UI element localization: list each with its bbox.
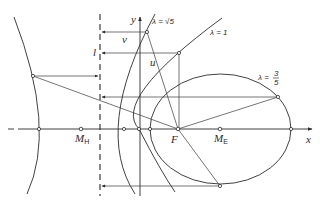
v-label: v bbox=[122, 33, 127, 45]
parabola-param-label: λ = 1 bbox=[209, 28, 228, 37]
left-hyperbola-point bbox=[31, 74, 34, 77]
hyperbola-top-point bbox=[145, 30, 148, 33]
hyperbola-point-to-F bbox=[147, 32, 178, 129]
vertex-ellipse-left bbox=[148, 127, 151, 130]
conic-diagram: y x l v u F MH ME λ = √5 λ = 1 λ = 3 5 bbox=[0, 0, 323, 206]
focus-point bbox=[176, 127, 180, 131]
ellipse-param-numerator: 3 bbox=[274, 69, 279, 78]
parabola-point bbox=[177, 51, 180, 54]
vertex-left-hyperbola bbox=[37, 127, 40, 130]
ellipse-point-to-F bbox=[178, 97, 278, 129]
vertex-ellipse-right bbox=[289, 127, 292, 130]
parabola-curve bbox=[133, 18, 222, 192]
left-hyperbola-to-F bbox=[33, 76, 178, 129]
ellipse-upper-point bbox=[276, 95, 279, 98]
hyperbola-left-branch bbox=[14, 17, 39, 194]
directrix-label: l bbox=[93, 46, 96, 58]
hyperbola-center-label: MH bbox=[74, 132, 89, 145]
ellipse-bottom-point bbox=[218, 184, 221, 187]
vertex-right-hyperbola bbox=[122, 127, 125, 130]
vertex-parabola bbox=[137, 127, 140, 130]
u-label: u bbox=[150, 56, 156, 68]
center-hyperbola-point bbox=[79, 127, 83, 131]
center-ellipse-point bbox=[218, 127, 222, 131]
ellipse-center-label: ME bbox=[213, 132, 228, 145]
ellipse-param-denominator: 5 bbox=[274, 78, 279, 87]
hyperbola-param-label: λ = √5 bbox=[151, 17, 174, 26]
ellipse-param-label: λ = bbox=[257, 73, 269, 82]
y-axis-label: y bbox=[130, 13, 136, 25]
focus-label: F bbox=[170, 133, 178, 145]
x-axis-label: x bbox=[305, 133, 311, 145]
